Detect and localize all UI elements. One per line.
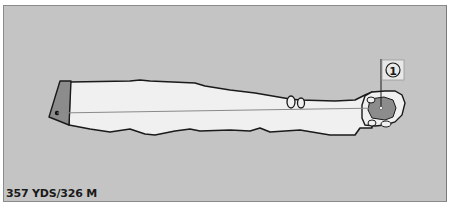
hole-cup bbox=[379, 106, 382, 109]
hole-diagram: 1 bbox=[0, 0, 454, 210]
greenside-bunker bbox=[368, 120, 376, 126]
bunker bbox=[287, 96, 295, 108]
bunker bbox=[298, 98, 305, 108]
fairway bbox=[69, 80, 372, 135]
hole-length-label: 357 YDS/326 M bbox=[6, 187, 97, 200]
tee-box bbox=[49, 81, 71, 125]
greenside-bunker bbox=[381, 121, 391, 127]
hole-number: 1 bbox=[389, 65, 397, 78]
greenside-bunker bbox=[367, 97, 375, 103]
